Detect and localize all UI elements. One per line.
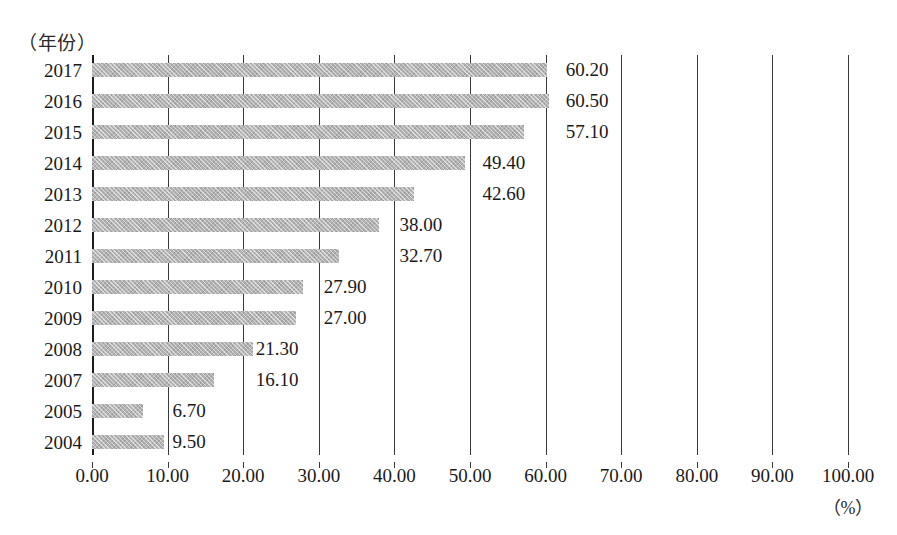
- y-axis-category-label: 2004: [44, 427, 82, 458]
- bar-row: 200821.30: [92, 334, 897, 365]
- y-axis-caption: （年份）: [18, 28, 96, 55]
- y-axis-category-label: 2007: [44, 365, 82, 396]
- x-tick-label: 0.00: [75, 465, 108, 487]
- y-axis-category-label: 2005: [44, 396, 82, 427]
- bar-chart: （年份） 0.0010.0020.0030.0040.0050.0060.007…: [0, 0, 897, 535]
- plot-area: 0.0010.0020.0030.0040.0050.0060.0070.008…: [92, 55, 848, 455]
- bar-row: 200716.10: [92, 365, 897, 396]
- bar-value-label: 27.00: [324, 302, 367, 333]
- x-tick-label: 80.00: [675, 465, 718, 487]
- bar-value-label: 27.90: [324, 271, 367, 302]
- bar-row: 201342.60: [92, 179, 897, 210]
- bar: [92, 404, 143, 418]
- bar: [92, 249, 339, 263]
- x-tick-label: 70.00: [600, 465, 643, 487]
- bar: [92, 280, 303, 294]
- bar-value-label: 57.10: [566, 116, 609, 147]
- bar-value-label: 21.30: [256, 333, 299, 364]
- bar-row: 201760.20: [92, 55, 897, 86]
- bar-value-label: 38.00: [399, 209, 442, 240]
- bar-row: 201238.00: [92, 210, 897, 241]
- bar: [92, 342, 253, 356]
- y-axis-category-label: 2014: [44, 148, 82, 179]
- bar-row: 20049.50: [92, 427, 897, 458]
- y-axis-category-label: 2008: [44, 334, 82, 365]
- bar-value-label: 9.50: [173, 426, 206, 457]
- bar-row: 201557.10: [92, 117, 897, 148]
- bar-value-label: 32.70: [399, 240, 442, 271]
- x-tick-label: 90.00: [751, 465, 794, 487]
- bar-row: 20056.70: [92, 396, 897, 427]
- bar-row: 201027.90: [92, 272, 897, 303]
- x-axis-caption: （%）: [823, 493, 874, 519]
- bar-value-label: 49.40: [483, 147, 526, 178]
- y-axis-category-label: 2009: [44, 303, 82, 334]
- x-tick-label: 100.00: [822, 465, 874, 487]
- x-tick-label: 50.00: [449, 465, 492, 487]
- bar-row: 201449.40: [92, 148, 897, 179]
- bar: [92, 373, 214, 387]
- bar: [92, 187, 414, 201]
- x-tick-label: 40.00: [373, 465, 416, 487]
- y-axis-category-label: 2017: [44, 55, 82, 86]
- bar-value-label: 60.50: [566, 85, 609, 116]
- bar-row: 201660.50: [92, 86, 897, 117]
- bar: [92, 218, 379, 232]
- bar-row: 200927.00: [92, 303, 897, 334]
- y-axis-category-label: 2011: [45, 241, 82, 272]
- x-tick-label: 30.00: [297, 465, 340, 487]
- bar-value-label: 16.10: [256, 364, 299, 395]
- bar-value-label: 6.70: [173, 395, 206, 426]
- bar: [92, 63, 547, 77]
- y-axis-category-label: 2015: [44, 117, 82, 148]
- x-tick-label: 10.00: [146, 465, 189, 487]
- bar: [92, 94, 549, 108]
- bar: [92, 125, 524, 139]
- bar-value-label: 42.60: [483, 178, 526, 209]
- y-axis-category-label: 2016: [44, 86, 82, 117]
- y-axis-category-label: 2013: [44, 179, 82, 210]
- x-tick-label: 60.00: [524, 465, 567, 487]
- bar: [92, 311, 296, 325]
- bar: [92, 435, 164, 449]
- y-axis-category-label: 2010: [44, 272, 82, 303]
- bar: [92, 156, 465, 170]
- bar-row: 201132.70: [92, 241, 897, 272]
- bar-value-label: 60.20: [566, 54, 609, 85]
- x-tick-label: 20.00: [222, 465, 265, 487]
- y-axis-category-label: 2012: [44, 210, 82, 241]
